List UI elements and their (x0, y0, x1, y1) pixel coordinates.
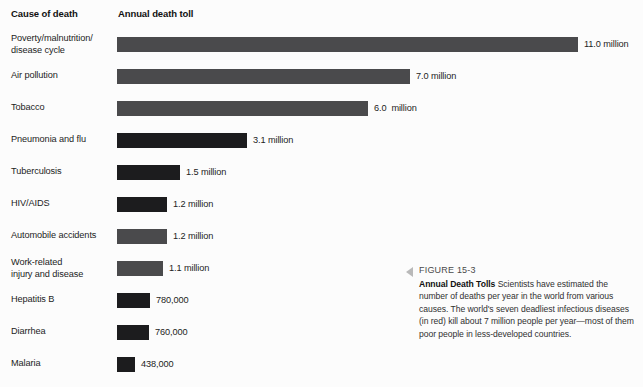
bar-value-label: 11.0 million (584, 39, 629, 49)
bar (117, 69, 410, 84)
bar-value-label: 6.0 million (374, 103, 417, 113)
bar-value-label: 3.1 million (253, 135, 293, 145)
bar-row-label: Tuberculosis (11, 166, 113, 178)
figure-page: Cause of death Annual death toll Poverty… (0, 0, 643, 387)
bar (117, 357, 135, 372)
bar (117, 197, 167, 212)
figure-caption: FIGURE 15-3 Annual Death Tolls Scientist… (419, 264, 637, 341)
bar-row-label: Work-related injury and disease (11, 257, 113, 280)
bar-wrapper: 1.2 million (117, 188, 213, 220)
bar-row-label: Hepatitis B (11, 294, 113, 306)
bar-row-label: Automobile accidents (11, 230, 113, 242)
bar-value-label: 1.2 million (173, 231, 213, 241)
bar-row-label: Air pollution (11, 70, 113, 82)
bar-row: Poverty/malnutrition/ disease cycle11.0 … (0, 28, 643, 60)
caption-title: Annual Death Tolls (419, 279, 495, 289)
bar-wrapper: 1.2 million (117, 220, 213, 252)
bar (117, 293, 150, 308)
column-header-cause: Cause of death (11, 8, 78, 19)
bar-row: Pneumonia and flu3.1 million (0, 124, 643, 156)
bar-wrapper: 11.0 million (117, 28, 629, 60)
bar (117, 101, 368, 116)
bar-wrapper: 158,000 (117, 380, 163, 387)
bar-row-label: Pneumonia and flu (11, 134, 113, 146)
bar (117, 325, 149, 340)
bar-wrapper: 760,000 (117, 316, 188, 348)
bar-row-label: Malaria (11, 358, 113, 370)
bar-row: HIV/AIDS1.2 million (0, 188, 643, 220)
caption-marker-triangle-icon (406, 267, 413, 277)
bar-wrapper: 438,000 (117, 348, 174, 380)
column-header-toll: Annual death toll (118, 8, 193, 19)
bar-value-label: 7.0 million (416, 71, 456, 81)
bar (117, 37, 578, 52)
figure-number: FIGURE 15-3 (419, 264, 637, 277)
bar-row: Malaria438,000 (0, 348, 643, 380)
bar-row: Automobile accidents1.2 million (0, 220, 643, 252)
bar-value-label: 1.5 million (186, 167, 226, 177)
bar-value-label: 1.2 million (173, 199, 213, 209)
bar-value-label: 438,000 (141, 359, 174, 369)
bar-wrapper: 1.1 million (117, 252, 209, 284)
bar-row-label: Poverty/malnutrition/ disease cycle (11, 33, 113, 56)
bar-wrapper: 780,000 (117, 284, 189, 316)
bar-row-label: Diarrhea (11, 326, 113, 338)
bar-value-label: 1.1 million (169, 263, 209, 273)
bar-row-label: Tobacco (11, 102, 113, 114)
bar-wrapper: 1.5 million (117, 156, 226, 188)
bar-value-label: 760,000 (155, 327, 188, 337)
bar-row: Tobacco6.0 million (0, 92, 643, 124)
bar-row: Tuberculosis1.5 million (0, 156, 643, 188)
bar (117, 133, 247, 148)
bar-value-label: 780,000 (156, 295, 189, 305)
bar-row: Air pollution7.0 million (0, 60, 643, 92)
bar-wrapper: 3.1 million (117, 124, 293, 156)
bar (117, 229, 167, 244)
bar-wrapper: 7.0 million (117, 60, 456, 92)
bar-row-label: HIV/AIDS (11, 198, 113, 210)
bar (117, 165, 180, 180)
bar-row: Measles158,000 (0, 380, 643, 387)
bar (117, 261, 163, 276)
bar-wrapper: 6.0 million (117, 92, 417, 124)
